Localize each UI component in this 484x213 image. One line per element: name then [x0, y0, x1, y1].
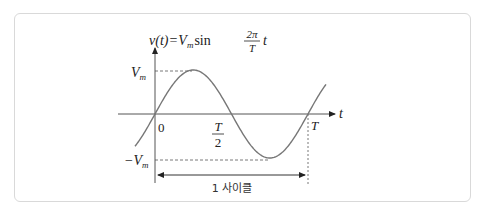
formula-var: t — [263, 33, 268, 48]
formula-frac-num: 2π — [246, 28, 258, 40]
period-label: T — [311, 118, 319, 133]
zero-label: 0 — [158, 120, 165, 135]
formula-frac-den: T — [249, 42, 256, 54]
t-axis-label: t — [339, 106, 344, 121]
formula-equals: = — [169, 33, 177, 48]
formula: v(t)=Vmsin — [149, 33, 211, 50]
formula-amp-sub: m — [187, 40, 194, 50]
neg-vm-text: −V — [124, 153, 143, 168]
formula-lhs: v(t) — [149, 33, 169, 49]
formula-func: sin — [194, 33, 210, 48]
neg-vm-sub: m — [142, 160, 149, 170]
neg-vm-label: −Vm — [124, 153, 149, 170]
cycle-label: 1 사이클 — [212, 182, 253, 195]
sine-diagram: v(t)=Vmsin 2π T t t Vm −Vm 0 T 2 T 1 사이클 — [0, 0, 484, 213]
vm-sub: m — [140, 72, 147, 82]
half-period-den: 2 — [215, 135, 222, 150]
half-period-num: T — [214, 119, 222, 134]
vm-label: Vm — [131, 65, 147, 82]
